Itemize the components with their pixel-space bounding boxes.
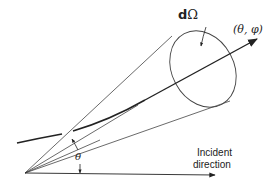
particle-trajectory-cont — [73, 100, 145, 131]
solid-angle-pointer — [201, 27, 206, 46]
incident-direction-label: Incident direction — [193, 147, 232, 171]
particle-trajectory — [17, 134, 62, 143]
incident-label-line2: direction — [193, 159, 232, 171]
scattered-direction-label: (θ, φ) — [233, 24, 263, 35]
cone-inner-line-2 — [25, 140, 100, 173]
solid-angle-label: dΩ — [178, 8, 198, 21]
scattered-direction-arrow — [145, 39, 257, 100]
incident-direction-arrow — [25, 173, 215, 175]
cone-edge-upper — [25, 36, 172, 173]
incident-label-line1: Incident — [193, 147, 232, 159]
theta-angle-label: θ — [75, 152, 81, 162]
